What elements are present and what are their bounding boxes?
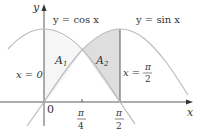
boundary-label-x-equals-pi-over-2-prefix: x = [123,67,140,78]
area-between-curves-diagram: y x 0 y = cos x y = sin x A1 A2 x = 0 x … [0,0,200,136]
tick-label-pi-over-4-num: π [77,108,85,118]
boundary-label-pi-num: π [144,62,152,72]
x-axis-label: x [187,106,194,119]
y-axis-label: y [32,1,40,14]
boundary-label-x-equals-0: x = 0 [16,69,43,80]
tick-label-pi-over-2-den: 2 [116,121,122,131]
x-axis-arrow-icon [186,100,193,105]
origin-label: 0 [47,103,54,116]
y-axis-arrow-icon [42,4,47,11]
boundary-label-pi-den: 2 [145,74,151,84]
tick-label-pi-over-2-num: π [115,108,123,118]
tick-label-pi-over-4-den: 4 [78,121,84,131]
sin-curve-label: y = sin x [135,14,180,25]
cos-curve-label: y = cos x [52,14,99,25]
